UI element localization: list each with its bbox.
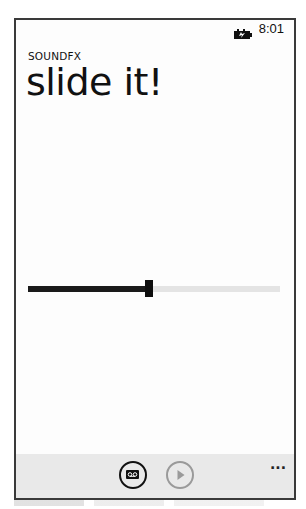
battery-charging-icon <box>234 24 254 34</box>
application-bar: ... <box>16 454 294 498</box>
clock: 8:01 <box>259 21 284 36</box>
record-icon <box>121 463 144 486</box>
volume-slider[interactable] <box>28 278 280 298</box>
play-button[interactable] <box>166 461 194 489</box>
more-options-button[interactable]: ... <box>270 456 286 472</box>
slider-thumb[interactable] <box>145 280 153 297</box>
page-title: slide it! <box>26 60 163 104</box>
phone-screen: 8:01 SOUNDFX slide it! ... <box>14 18 296 500</box>
slider-fill <box>28 286 149 292</box>
page-caption-fragment <box>14 500 264 506</box>
play-icon <box>168 463 192 487</box>
record-button[interactable] <box>119 461 147 489</box>
status-bar: 8:01 <box>16 20 294 40</box>
